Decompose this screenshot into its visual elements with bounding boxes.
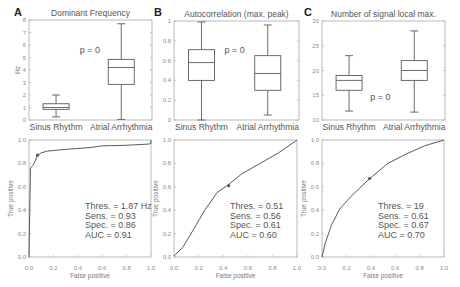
- x-tick-label: 0.6: [244, 265, 253, 271]
- y-axis-label: True positive: [300, 180, 308, 217]
- p-value-annotation: p = 0: [370, 92, 390, 102]
- x-tick-label: 0.0: [170, 265, 179, 271]
- iqr-box: [336, 75, 362, 90]
- iqr-box: [43, 104, 69, 110]
- category-label: Sinus Rhythm: [175, 122, 228, 132]
- roc-stat-line: AUC = 0.70: [378, 230, 425, 240]
- roc-stat-line: Thres. = 0.51: [230, 201, 283, 211]
- y-tick-label: 0.2: [163, 97, 172, 103]
- roc-stat-line: AUC = 0.91: [85, 230, 132, 240]
- iqr-box: [108, 59, 134, 84]
- roc-stats: Thres. = 19Sens. = 0.61Spec. = 0.67AUC =…: [378, 201, 429, 240]
- x-tick-label: 0.0: [25, 265, 34, 271]
- p-value-annotation: p = 0: [224, 45, 244, 55]
- x-tick-label: 0.8: [415, 265, 424, 271]
- y-tick-label: 20: [312, 68, 319, 74]
- x-axis-label: False positive: [363, 272, 403, 280]
- y-tick-label: 2: [23, 92, 27, 98]
- y-tick-label: 0.6: [163, 184, 172, 190]
- roc-stat-line: Spec. = 0.86: [85, 220, 136, 230]
- y-tick-label: 0: [23, 117, 27, 123]
- roc-stat-line: AUC = 0.60: [230, 230, 277, 240]
- chart-title: Number of signal local max.: [331, 9, 436, 19]
- x-tick-label: 0.2: [49, 265, 58, 271]
- y-axis-label: True positive: [7, 180, 15, 217]
- y-tick-label: 15: [312, 92, 319, 98]
- chart-title: Autocorrelation (max. peak): [184, 9, 289, 19]
- panel-a-boxplot: ADominant Frequency012345678HzSinus Rhyt…: [14, 6, 153, 132]
- y-tick-label: 0.2: [163, 231, 172, 237]
- y-tick-label: 1: [23, 105, 27, 111]
- iqr-box: [255, 56, 281, 91]
- y-tick-label: 0.6: [163, 58, 172, 64]
- operating-point-marker: [36, 154, 39, 157]
- y-tick-label: 1.0: [311, 137, 320, 143]
- x-axis-label: False positive: [216, 272, 256, 280]
- panel-c-boxplot: CNumber of signal local max.1015202530Si…: [304, 6, 446, 132]
- y-tick-label: 0.8: [163, 38, 172, 44]
- p-value-annotation: p = 0: [80, 45, 100, 55]
- y-tick-label: 0.0: [311, 254, 320, 260]
- x-tick-label: 1.0: [293, 265, 302, 271]
- roc-stats: Thres. = 0.51Sens. = 0.56Spec. = 0.61AUC…: [230, 201, 283, 240]
- y-axis-label: True positive: [152, 180, 160, 217]
- panel-letter: B: [154, 6, 162, 18]
- y-tick-label: 0.2: [311, 231, 320, 237]
- x-tick-label: 0.4: [367, 265, 376, 271]
- y-tick-label: 30: [312, 18, 319, 24]
- y-tick-label: 4: [23, 67, 27, 73]
- roc-stat-line: Spec. = 0.67: [378, 220, 429, 230]
- operating-point-marker: [227, 184, 230, 187]
- category-label: Sinus Rhythm: [323, 122, 376, 132]
- y-tick-label: 0: [168, 117, 172, 123]
- category-label: Atrial Arrhythmia: [90, 122, 153, 132]
- operating-point-marker: [368, 177, 371, 180]
- y-tick-label: 0.8: [163, 160, 172, 166]
- x-tick-label: 0.4: [74, 265, 83, 271]
- y-tick-label: 1: [168, 18, 172, 24]
- y-tick-label: 0.8: [18, 160, 27, 166]
- y-tick-label: 8: [23, 17, 27, 23]
- y-tick-label: 7: [23, 30, 27, 36]
- iqr-box: [189, 50, 215, 81]
- y-tick-label: 0.4: [18, 207, 27, 213]
- x-tick-label: 1.0: [440, 265, 449, 271]
- y-axis-label: Hz: [14, 66, 21, 74]
- panel-a-roc-curve: 0.00.20.40.60.81.00.00.20.40.60.81.0True…: [7, 137, 156, 280]
- roc-stat-line: Thres. = 1.87 Hz: [85, 201, 152, 211]
- x-tick-label: 0.6: [391, 265, 400, 271]
- panel-letter: A: [14, 6, 22, 18]
- x-axis-label: False positive: [70, 272, 110, 280]
- x-tick-label: 0.4: [219, 265, 228, 271]
- y-tick-label: 1.0: [18, 137, 27, 143]
- figure: ADominant Frequency012345678HzSinus Rhyt…: [0, 0, 460, 287]
- panel-c-roc-curve: 0.00.20.40.60.81.00.00.20.40.60.81.0True…: [300, 137, 449, 280]
- y-tick-label: 0.0: [163, 254, 172, 260]
- panel-letter: C: [304, 6, 312, 18]
- y-tick-label: 0.0: [18, 254, 27, 260]
- x-tick-label: 1.0: [147, 265, 156, 271]
- x-tick-label: 0.8: [122, 265, 131, 271]
- y-tick-label: 0.4: [311, 207, 320, 213]
- y-tick-label: 6: [23, 42, 27, 48]
- y-tick-label: 10: [312, 117, 319, 123]
- x-tick-label: 0.6: [98, 265, 107, 271]
- category-label: Atrial Arrhythmia: [237, 122, 300, 132]
- category-label: Atrial Arrhythmia: [383, 122, 446, 132]
- y-tick-label: 5: [23, 55, 27, 61]
- y-tick-label: 1.0: [163, 137, 172, 143]
- y-tick-label: 0.6: [311, 184, 320, 190]
- x-tick-label: 0.8: [268, 265, 277, 271]
- roc-stat-line: Thres. = 19: [378, 201, 424, 211]
- y-tick-label: 0.8: [311, 160, 320, 166]
- x-tick-label: 0.2: [194, 265, 203, 271]
- panel-b-roc-curve: 0.00.20.40.60.81.00.00.20.40.60.81.0True…: [152, 137, 302, 280]
- y-tick-label: 0.4: [163, 77, 172, 83]
- y-tick-label: 3: [23, 80, 27, 86]
- y-tick-label: 0.2: [18, 231, 27, 237]
- roc-stat-line: Spec. = 0.61: [230, 220, 281, 230]
- chart-title: Dominant Frequency: [51, 8, 131, 18]
- x-tick-label: 0.2: [342, 265, 351, 271]
- y-tick-label: 25: [312, 43, 319, 49]
- category-label: Sinus Rhythm: [30, 122, 83, 132]
